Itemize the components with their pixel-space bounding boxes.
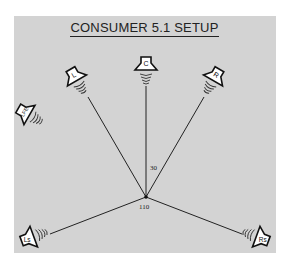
- svg-text:Ls: Ls: [24, 236, 32, 243]
- svg-text:C: C: [143, 60, 148, 67]
- speaker-layout: L C R LFE Ls Rs: [0, 0, 289, 268]
- angle-label-surround: 110: [139, 203, 149, 211]
- speaker-left-surround: Ls: [18, 222, 51, 252]
- svg-text:Rs: Rs: [259, 236, 268, 243]
- listener-position: [144, 195, 148, 199]
- line-to-right: [146, 97, 204, 197]
- speaker-lines: [50, 86, 242, 234]
- speaker-right-surround: Rs: [239, 222, 272, 252]
- line-to-right-surround: [146, 197, 242, 234]
- speaker-center: C: [135, 57, 157, 84]
- speaker-right: R: [196, 64, 229, 98]
- angle-label-front: 30: [150, 164, 157, 172]
- line-to-left-surround: [50, 197, 146, 234]
- speaker-left: L: [61, 64, 94, 98]
- line-to-left: [88, 97, 146, 197]
- speaker-lfe: LFE: [13, 99, 47, 132]
